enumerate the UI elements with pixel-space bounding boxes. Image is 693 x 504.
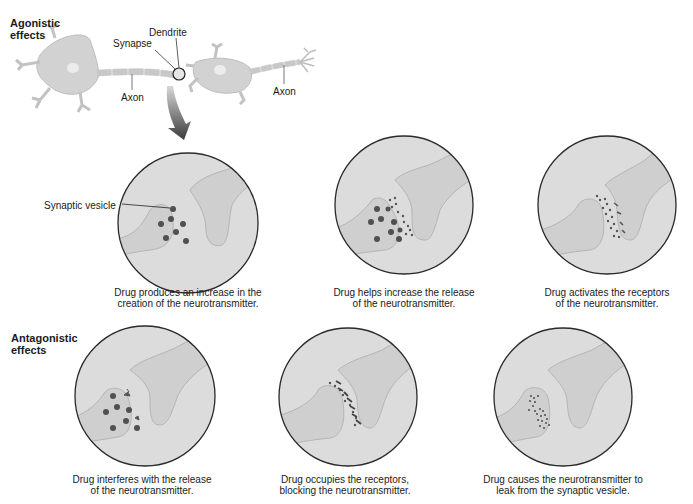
panel-activate-receptors-art xyxy=(538,136,680,274)
dendrite-label: Dendrite xyxy=(149,27,187,38)
caption-line1: Drug interferes with the release xyxy=(73,474,212,485)
caption-interfere-release: Drug interferes with the release of the … xyxy=(73,474,212,496)
panel-increase-release-art xyxy=(330,136,480,274)
caption-line2: of the neurotransmitter. xyxy=(544,298,669,309)
panel-interfere-release-art xyxy=(72,326,215,466)
zoom-arrow xyxy=(167,86,191,140)
synapse-label: Synapse xyxy=(113,38,152,49)
antagonistic-heading-line1: Antagonistic xyxy=(11,332,78,344)
caption-line1: Drug produces an increase in the xyxy=(114,287,261,298)
panel-increase-creation-art xyxy=(110,150,270,293)
caption-increase-creation: Drug produces an increase in the creatio… xyxy=(114,287,261,309)
synaptic-vesicle-label: Synaptic vesicle xyxy=(44,200,116,211)
agonistic-heading: Agonistic effects xyxy=(10,17,60,41)
caption-activate-receptors: Drug activates the receptors of the neur… xyxy=(544,287,669,309)
diagram-artwork xyxy=(0,0,693,504)
caption-line2: of the neurotransmitter. xyxy=(73,485,212,496)
left-neuron-body xyxy=(37,35,99,94)
agonistic-heading-line2: effects xyxy=(10,29,60,41)
caption-line2: creation of the neurotransmitter. xyxy=(114,298,261,309)
caption-line2: blocking the neurotransmitter. xyxy=(279,485,410,496)
caption-leak-vesicle: Drug causes the neurotransmitter to leak… xyxy=(483,474,643,496)
panel-occupy-receptors-art xyxy=(279,328,420,466)
axon-right-label: Axon xyxy=(273,86,296,97)
caption-occupy-receptors: Drug occupies the receptors, blocking th… xyxy=(279,474,410,496)
caption-increase-release: Drug helps increase the release of the n… xyxy=(333,287,474,309)
axon-left-label: Axon xyxy=(121,92,144,103)
agonistic-heading-line1: Agonistic xyxy=(10,17,60,29)
antagonistic-heading: Antagonistic effects xyxy=(11,332,78,356)
caption-line2: leak from the synaptic vesicle. xyxy=(483,485,643,496)
caption-line1: Drug helps increase the release xyxy=(333,287,474,298)
caption-line2: of the neurotransmitter. xyxy=(333,298,474,309)
caption-line1: Drug occupies the receptors, xyxy=(279,474,410,485)
antagonistic-heading-line2: effects xyxy=(11,344,78,356)
caption-line1: Drug activates the receptors xyxy=(544,287,669,298)
panel-leak-vesicle-art xyxy=(494,328,632,466)
caption-line1: Drug causes the neurotransmitter to xyxy=(483,474,643,485)
